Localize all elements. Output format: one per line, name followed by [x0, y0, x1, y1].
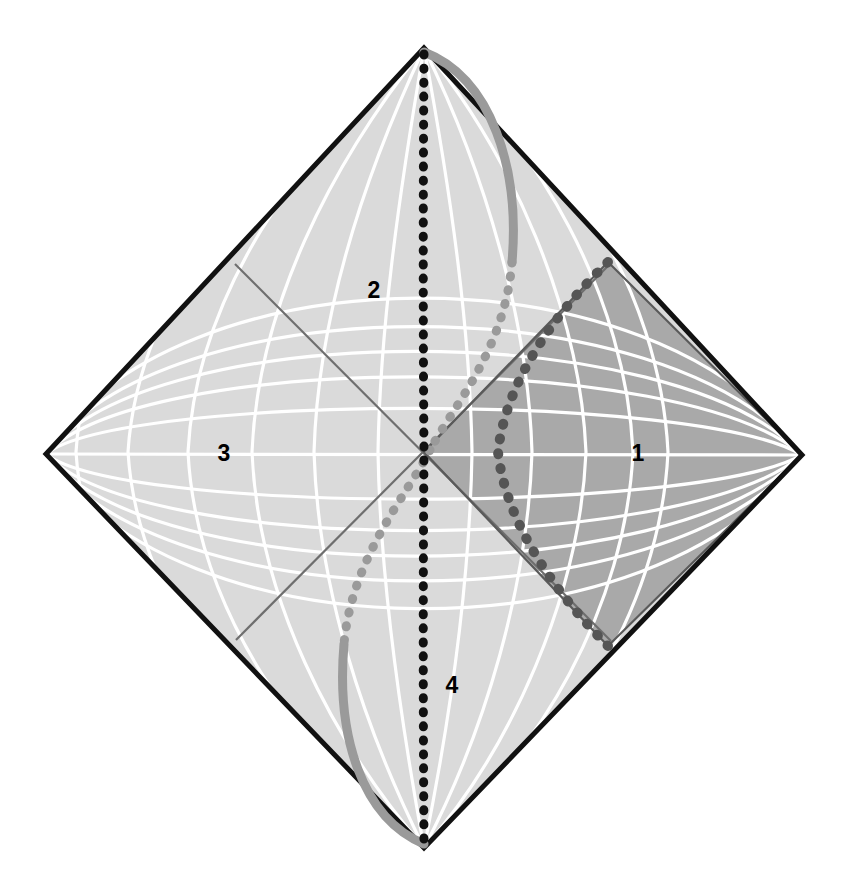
penrose-diagram-figure: 1 2 3 4 [0, 0, 848, 884]
penrose-diagram-canvas [0, 0, 848, 884]
